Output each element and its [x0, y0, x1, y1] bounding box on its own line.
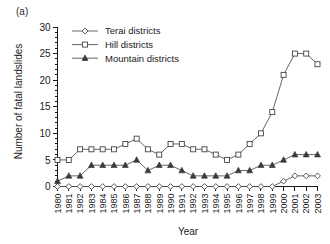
data-series-group — [55, 51, 321, 189]
x-tick-label: 1980 — [53, 194, 63, 214]
data-point — [190, 173, 196, 179]
y-tick-label: 5 — [45, 155, 51, 166]
data-point — [134, 157, 140, 163]
data-point — [202, 147, 207, 152]
data-point — [247, 141, 252, 146]
y-axis-ticks: 051015202530 — [39, 22, 57, 193]
legend-item: Mountain districts — [72, 53, 179, 64]
x-tick-label: 1993 — [200, 194, 210, 214]
chart-legend: Terai districtsHill districtsMountain di… — [72, 25, 179, 63]
legend-label: Terai districts — [105, 25, 161, 36]
data-point — [213, 184, 219, 190]
data-point — [224, 173, 230, 179]
data-point — [224, 184, 230, 190]
data-point — [168, 184, 174, 190]
x-tick-label: 1999 — [268, 194, 278, 214]
legend-marker — [82, 28, 88, 34]
x-tick-label: 2000 — [279, 194, 289, 214]
line-chart-plot: 051015202530 198019811982198319841985198… — [0, 0, 330, 244]
data-point — [156, 184, 162, 190]
data-point — [168, 141, 173, 146]
x-tick-label: 1987 — [132, 194, 142, 214]
data-point — [66, 184, 72, 190]
x-tick-label: 1992 — [188, 194, 198, 214]
data-point — [179, 184, 185, 190]
data-point — [315, 173, 321, 179]
data-point — [281, 178, 287, 184]
data-point — [202, 173, 208, 179]
data-point — [89, 184, 95, 190]
data-point — [202, 184, 208, 190]
data-point — [66, 157, 71, 162]
series-line — [58, 54, 318, 160]
x-tick-label: 1988 — [143, 194, 153, 214]
data-point — [235, 184, 241, 190]
legend-label: Mountain districts — [105, 53, 179, 64]
x-tick-label: 2002 — [301, 194, 311, 214]
data-point — [179, 141, 184, 146]
data-point — [191, 147, 196, 152]
x-tick-label: 1997 — [245, 194, 255, 214]
data-point — [269, 184, 275, 190]
legend-marker — [83, 42, 88, 47]
x-tick-label: 1990 — [166, 194, 176, 214]
x-axis-ticks: 1980198119821983198419851986198719881989… — [53, 187, 323, 214]
data-point — [134, 136, 139, 141]
data-point — [225, 157, 230, 162]
x-tick-label: 1986 — [121, 194, 131, 214]
data-point — [55, 184, 61, 190]
data-point — [281, 157, 287, 163]
data-point — [134, 184, 140, 190]
data-point — [100, 147, 105, 152]
series-line — [58, 155, 318, 182]
data-point — [258, 184, 264, 190]
data-point — [292, 51, 297, 56]
data-point — [236, 152, 241, 157]
y-tick-label: 10 — [39, 128, 51, 139]
x-tick-label: 1996 — [234, 194, 244, 214]
data-point — [89, 147, 94, 152]
data-point — [145, 184, 151, 190]
data-point — [55, 157, 60, 162]
data-point — [315, 62, 320, 67]
x-tick-label: 1983 — [87, 194, 97, 214]
x-tick-label: 1994 — [211, 194, 221, 214]
x-tick-label: 1982 — [75, 194, 85, 214]
series-line — [58, 176, 318, 187]
data-point — [247, 184, 253, 190]
y-tick-label: 15 — [39, 101, 51, 112]
x-tick-label: 1984 — [98, 194, 108, 214]
x-tick-label: 1991 — [177, 194, 187, 214]
x-tick-label: 2003 — [313, 194, 323, 214]
data-point — [112, 147, 117, 152]
data-point — [292, 173, 298, 179]
data-point — [190, 184, 196, 190]
x-tick-label: 1998 — [256, 194, 266, 214]
data-point — [100, 184, 106, 190]
data-point — [157, 152, 162, 157]
data-point — [213, 173, 219, 179]
data-point — [145, 147, 150, 152]
data-point — [123, 141, 128, 146]
data-point — [213, 152, 218, 157]
x-tick-label: 1981 — [64, 194, 74, 214]
data-point — [179, 167, 185, 173]
legend-item: Terai districts — [72, 25, 161, 36]
y-tick-label: 30 — [39, 22, 51, 33]
legend-label: Hill districts — [105, 39, 153, 50]
data-point — [78, 147, 83, 152]
data-point — [303, 173, 309, 179]
data-point — [122, 184, 128, 190]
data-point — [77, 184, 83, 190]
data-point — [258, 131, 263, 136]
data-point — [111, 184, 117, 190]
data-point — [304, 51, 309, 56]
legend-item: Hill districts — [72, 39, 153, 50]
series-hill-districts — [55, 51, 320, 162]
data-point — [281, 72, 286, 77]
y-tick-label: 20 — [39, 75, 51, 86]
figure-container: (a) Number of fatal landslides Year 0510… — [0, 0, 330, 244]
x-tick-label: 1985 — [109, 194, 119, 214]
x-tick-label: 2001 — [290, 194, 300, 214]
y-tick-label: 25 — [39, 48, 51, 59]
